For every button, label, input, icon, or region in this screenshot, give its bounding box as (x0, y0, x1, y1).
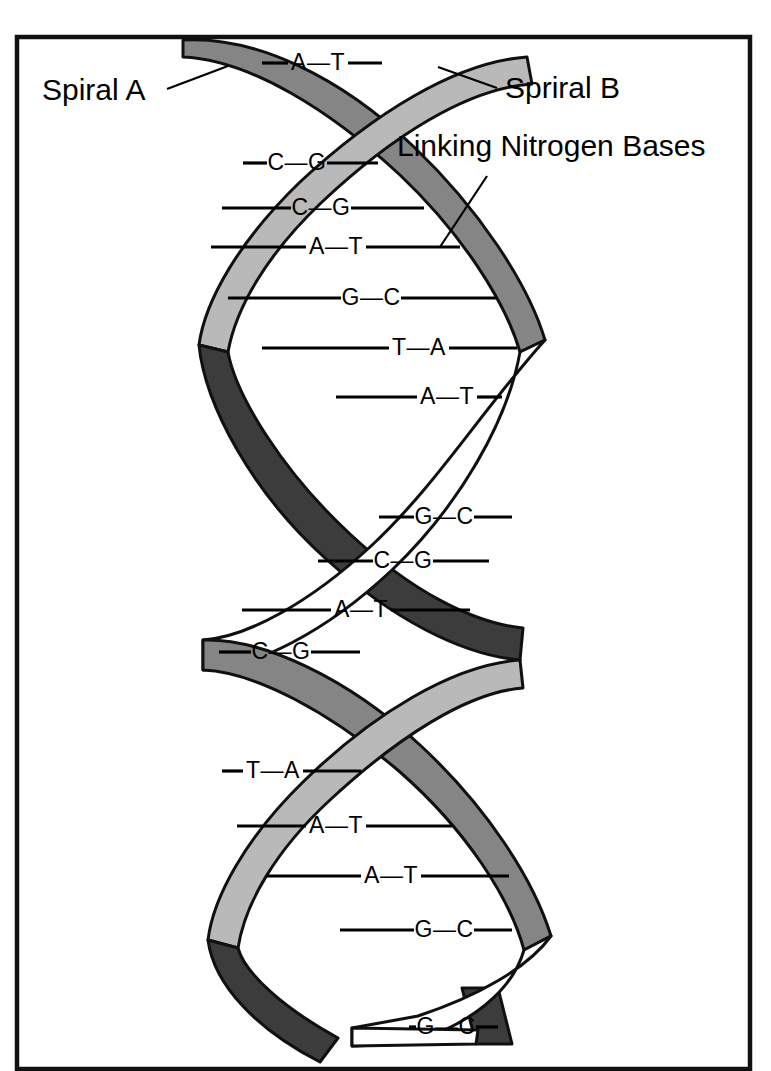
base-pair-rung: G—C (340, 916, 512, 942)
base-pair-label: C—G (268, 149, 327, 175)
base-pair-label: A—T (334, 596, 388, 622)
base-pair-label: G—C (415, 503, 474, 529)
base-pair-label: A—T (309, 812, 363, 838)
spiral-a-leader-line (167, 66, 228, 89)
base-pair-label: A—T (420, 383, 474, 409)
base-pair-label: C—G (374, 547, 433, 573)
dna-diagram-figure: A—TC—GC—GA—TG—CT—AA—TG—CC—GA—TC—GT—AA—TA… (0, 0, 771, 1071)
base-pair-rung: G—C (228, 284, 497, 310)
base-pair-label: G—C (415, 916, 474, 942)
base-pair-label: G—C (342, 284, 401, 310)
base-pair-label: A—T (291, 49, 345, 75)
base-pair-label: C—G (292, 194, 351, 220)
base-pair-label: C—G (252, 638, 311, 664)
base-pair-label: G—C (417, 1013, 476, 1039)
base-pair-label: A—T (309, 233, 363, 259)
callout-label-spiral-b: Spriral B (505, 71, 620, 104)
callout-label-linking-nitrogen-bases: Linking Nitrogen Bases (397, 129, 706, 162)
helix-ribbons (183, 40, 551, 1062)
base-pair-rung: T—A (262, 334, 517, 360)
base-pair-rung: C—G (222, 194, 424, 220)
base-pair-label: A—T (364, 862, 418, 888)
strand-a-segment-4 (208, 940, 338, 1062)
base-pair-rung: A—T (336, 383, 502, 409)
base-pair-label: T—A (246, 757, 300, 783)
base-pair-rung: A—T (267, 862, 509, 888)
base-pair-label: T—A (392, 334, 446, 360)
callout-label-spiral-a: Spiral A (42, 73, 145, 106)
dna-helix-svg: A—TC—GC—GA—TG—CT—AA—TG—CC—GA—TC—GT—AA—TA… (0, 0, 771, 1071)
